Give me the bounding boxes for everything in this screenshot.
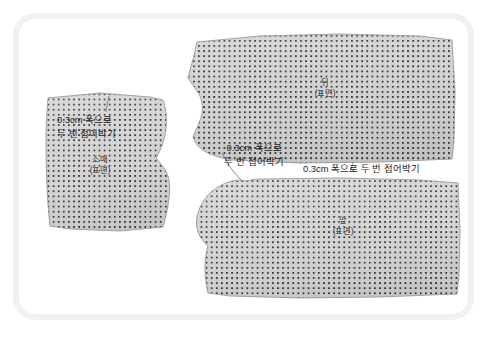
callout-back-hem: 0.3cm 폭으로 두 번 접어박기 [303, 162, 420, 176]
callout-neckline-line2: 두 번 접어박기 [208, 155, 300, 169]
piece-label-sleeve-side: (표면) [70, 166, 130, 177]
callout-back-hem-line1: 0.3cm 폭으로 두 번 접어박기 [303, 162, 420, 176]
illustration-canvas: 소매 (표면) 뒤 (표면) 앞 (표면) 0.3cm 폭으로 두 번 접어박기… [0, 0, 491, 337]
callout-neckline: 0.3cm 폭으로 두 번 접어박기 [208, 141, 300, 168]
piece-label-sleeve-name: 소매 [70, 155, 130, 166]
piece-label-front: 앞 (표면) [313, 216, 373, 237]
piece-label-back-name: 뒤 [295, 78, 355, 89]
callout-sleeve-hem-line2: 두 번 접어박기 [57, 127, 116, 141]
piece-label-back: 뒤 (표면) [295, 78, 355, 99]
piece-label-back-side: (표면) [295, 89, 355, 100]
piece-label-front-side: (표면) [313, 227, 373, 238]
callout-neckline-line1: 0.3cm 폭으로 [208, 141, 300, 155]
callout-sleeve-hem-line1: 0.3cm 폭으로 [57, 113, 116, 127]
piece-label-front-name: 앞 [313, 216, 373, 227]
callout-sleeve-hem: 0.3cm 폭으로 두 번 접어박기 [57, 113, 116, 140]
piece-label-sleeve: 소매 (표면) [70, 155, 130, 176]
